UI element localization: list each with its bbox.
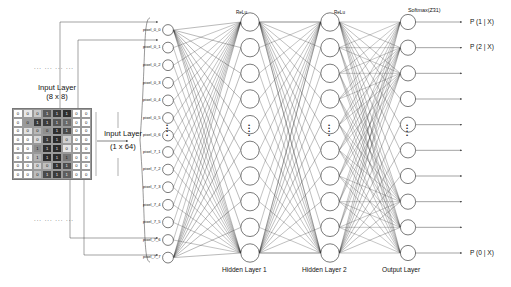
pixel-cell: 0: [33, 109, 43, 118]
input-node-label: pixel_0_4: [143, 98, 161, 102]
input-node-label: pixel_0_3: [143, 81, 161, 85]
pixel-cell: 0: [72, 127, 82, 136]
hidden-layer-1-node: [241, 218, 259, 236]
hidden-layer-1-node: [241, 192, 259, 210]
hidden-layer-2-node: [321, 64, 339, 82]
hidden-layer-1-node: [241, 167, 259, 185]
pixel-cell: 0: [13, 127, 23, 136]
pixel-cell: 1: [62, 153, 72, 162]
input-neuron-node: [163, 42, 174, 53]
output-layer-ellipsis: ••••: [406, 124, 408, 137]
output-layer-node: [400, 14, 415, 29]
pixel-cell: 1: [62, 162, 72, 171]
hidden-layer-2-node: [321, 192, 339, 210]
pixel-cell: 1: [62, 127, 72, 136]
output-probability-label: P (0 | X): [470, 250, 494, 257]
output-layer-node: [400, 245, 415, 260]
pixel-cell: 0: [23, 109, 33, 118]
hidden-layer-2-activation-label: ReLu: [334, 11, 345, 16]
pixel-cell: 0: [23, 118, 33, 127]
pixel-cell: 0: [72, 162, 82, 171]
pixel-cell: 1: [52, 118, 62, 127]
input-node-label: pixel_7_2: [143, 167, 161, 171]
output-layer-node: [400, 143, 415, 158]
output-layer-caption: Output Layer: [382, 267, 420, 274]
output-layer-node: [400, 66, 415, 81]
pixel-cell: 1: [52, 144, 62, 153]
input-neuron-node: [163, 199, 174, 210]
input-neuron-node: [163, 252, 174, 263]
output-layer-node: [400, 168, 415, 183]
pixel-cell: 0: [62, 135, 72, 144]
pixel-cell: 1: [52, 153, 62, 162]
hidden-layer-2-ellipsis: ••••: [328, 124, 330, 137]
pixel-cell: 0: [33, 135, 43, 144]
input-neuron-node: [163, 235, 174, 246]
pixel-cell: 0: [72, 144, 82, 153]
pixel-cell: 0: [81, 153, 91, 162]
hidden-layer-2-node: [321, 38, 339, 56]
input-neuron-node: [163, 217, 174, 228]
pixel-cell: 1: [42, 144, 52, 153]
hidden-layer-2-node: [321, 90, 339, 108]
pixel-cell: 0: [23, 162, 33, 171]
pixel-cell: 0: [72, 135, 82, 144]
input-neuron-node: [163, 95, 174, 106]
pixel-cell: 0: [13, 109, 23, 118]
hidden-layer-1-node: [241, 90, 259, 108]
pixel-cell: 0: [72, 170, 82, 179]
pixel-cell: 0: [33, 162, 43, 171]
pixel-cell: 0: [72, 153, 82, 162]
pixel-cell: 0: [62, 144, 72, 153]
pixel-cell: 1: [42, 118, 52, 127]
output-layer-activation-label: Softmax(Z31): [408, 8, 441, 13]
input-layer-8x8-title: Input Layer: [24, 84, 90, 92]
output-probability-label: P (2 | X): [470, 44, 494, 51]
output-layer-node: [400, 220, 415, 235]
pixel-cell: 0: [81, 135, 91, 144]
input-node-label: pixel_7_1: [143, 150, 161, 154]
hidden-layer-2-node: [321, 218, 339, 236]
output-layer-node: [400, 40, 415, 55]
hidden-layer-1-activation-label: ReLu: [236, 11, 247, 16]
pixel-cell: 1: [42, 135, 52, 144]
pixel-cell: 0: [13, 118, 23, 127]
input-node-label: pixel_0_5: [143, 116, 161, 120]
input-layer-8x8-subtitle: (8 x 8): [24, 93, 90, 101]
pixel-cell: 1: [62, 170, 72, 179]
pixel-cell: 0: [81, 118, 91, 127]
hidden-layer-1-node: [241, 244, 259, 262]
pixel-cell: 0: [23, 170, 33, 179]
hidden-layer-1-node: [241, 64, 259, 82]
pixel-cell: 1: [52, 127, 62, 136]
pixel-cell: 1: [52, 170, 62, 179]
input-column-ellipsis: ••••: [166, 124, 168, 137]
input-node-label: pixel_0_2: [143, 63, 161, 67]
pixel-cell: 1: [52, 162, 62, 171]
pixel-cell: 0: [13, 135, 23, 144]
pixel-cell: 0: [23, 153, 33, 162]
input-pixel-grid: 0001110000111100000011000001100000111000…: [12, 108, 92, 180]
pixel-cell: 1: [62, 118, 72, 127]
pixel-cell: 0: [13, 144, 23, 153]
hidden-layer-1-node: [241, 38, 259, 56]
pixel-cell: 0: [81, 162, 91, 171]
pixel-cell: 1: [42, 109, 52, 118]
pixel-cell: 1: [62, 109, 72, 118]
output-probability-label: P (1 | X): [470, 19, 494, 26]
pixel-cell: 1: [33, 153, 43, 162]
pixel-cell: 0: [23, 127, 33, 136]
pixel-cell: 0: [23, 135, 33, 144]
pixel-cell: 0: [33, 170, 43, 179]
hidden-layer-2-node: [321, 244, 339, 262]
input-neuron-node: [163, 164, 174, 175]
pixel-cell: 0: [33, 127, 43, 136]
input-neuron-node: [163, 60, 174, 71]
pixel-cell: 0: [23, 144, 33, 153]
hidden-layer-1-ellipsis: ••••: [248, 124, 250, 137]
pixel-cell: 0: [81, 170, 91, 179]
pixel-cell: 1: [52, 109, 62, 118]
hidden-layer-1-node: [241, 141, 259, 159]
input-neuron-node: [163, 182, 174, 193]
input-neuron-node: [163, 25, 174, 36]
